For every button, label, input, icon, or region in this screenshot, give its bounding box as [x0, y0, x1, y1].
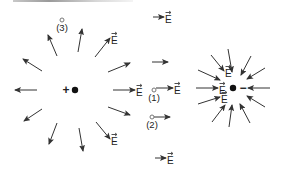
field-vector-E-label: E [165, 11, 172, 25]
field-vector-E-label: E [221, 91, 228, 105]
test-point-label: (1) [148, 92, 160, 103]
field-vector-label: E [111, 136, 118, 147]
field-arrow [23, 59, 42, 71]
field-arrow [212, 105, 225, 122]
positive-charge-symbol: + [62, 83, 69, 97]
field-vector-label: E [221, 94, 228, 105]
field-arrow [229, 105, 232, 127]
field-arrow [198, 70, 220, 80]
test-point-label: (3) [56, 22, 68, 33]
field-vector-label: E [136, 87, 143, 98]
test-point-label: (2) [146, 119, 158, 130]
field-arrow [49, 123, 57, 144]
test-points: (1)(2)(3) [56, 18, 160, 130]
field-arrow [78, 29, 82, 52]
positive-charge: + [62, 83, 78, 97]
field-vector-label: E [167, 155, 174, 166]
field-vector-E-label: E [111, 32, 118, 46]
field-arrow [24, 109, 42, 121]
negative-charge-symbol: − [239, 81, 246, 95]
field-arrow [96, 122, 110, 139]
negative-charge: − [230, 81, 247, 95]
field-vector-E-label: E [136, 84, 143, 98]
field-arrow [79, 128, 83, 151]
field-vector-label: E [225, 68, 232, 79]
field-arrow [48, 35, 57, 56]
field-arrow [241, 56, 251, 75]
electric-field-diagram: EEE EEE EEE (1)(2)(3) + − [0, 0, 285, 169]
field-vector-label: E [165, 14, 172, 25]
positive-charge-field-arrows: EEE [15, 29, 143, 151]
field-arrow [211, 55, 224, 71]
field-vector-E-label: E [167, 152, 174, 166]
field-arrow [198, 97, 220, 104]
field-arrows-between-charges: EEE [152, 11, 181, 166]
field-vector-E-label: E [174, 82, 181, 96]
positive-charge-dot [72, 87, 78, 93]
field-arrow [95, 38, 110, 57]
field-vector-label: E [174, 85, 181, 96]
negative-charge-dot [230, 85, 236, 91]
field-arrow [247, 96, 265, 107]
field-vector-E-label: E [111, 133, 118, 147]
field-vector-E-label: E [225, 65, 232, 79]
field-arrow [108, 63, 130, 72]
field-vector-label: E [111, 35, 118, 46]
field-arrow [108, 107, 130, 115]
field-arrow [240, 104, 250, 123]
field-arrow [247, 68, 265, 79]
